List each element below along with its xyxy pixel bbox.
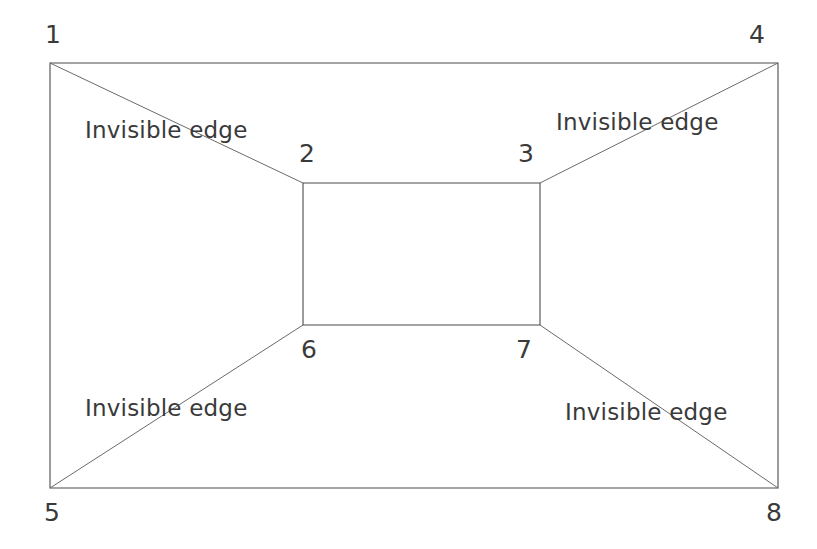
inner-rectangle-path bbox=[303, 183, 540, 325]
vertex-label-6: 6 bbox=[301, 337, 317, 362]
edge-label-bottom-right: Invisible edge bbox=[565, 401, 728, 424]
wireframe-svg bbox=[0, 0, 817, 549]
vertex-label-7: 7 bbox=[516, 337, 532, 362]
vertex-label-5: 5 bbox=[44, 500, 60, 525]
vertex-label-4: 4 bbox=[749, 22, 765, 47]
edge-label-bottom-left: Invisible edge bbox=[85, 397, 248, 420]
edge-label-top-left: Invisible edge bbox=[85, 119, 248, 142]
edge-label-top-right: Invisible edge bbox=[556, 111, 719, 134]
diagram-canvas: 1 2 3 4 5 6 7 8 Invisible edge Invisible… bbox=[0, 0, 817, 549]
vertex-label-1: 1 bbox=[45, 22, 61, 47]
vertex-label-8: 8 bbox=[766, 500, 782, 525]
vertex-label-3: 3 bbox=[518, 141, 534, 166]
vertex-label-2: 2 bbox=[299, 141, 315, 166]
